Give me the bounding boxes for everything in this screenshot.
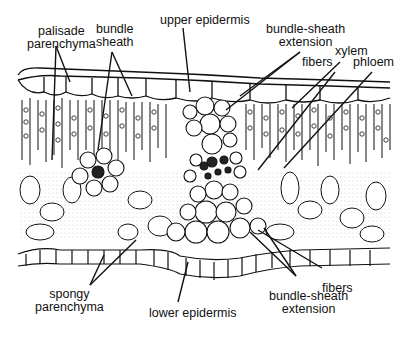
- label-line: sheath: [96, 36, 134, 49]
- label-upper-epidermis: upper epidermis: [160, 14, 250, 27]
- label-line: parenchyma: [35, 301, 104, 314]
- leaf-cross-section-diagram: palisade parenchyma bundle sheath upper …: [0, 0, 404, 343]
- label-bundle-sheath-extension-top: bundle-sheath extension: [266, 23, 345, 49]
- label-line: parenchyma: [27, 38, 96, 51]
- label-bundle-sheath: bundle sheath: [96, 23, 134, 49]
- lower-epidermis-drawing: [18, 248, 390, 280]
- label-fibers-top: fibers: [302, 56, 333, 69]
- label-line: extension: [269, 303, 348, 316]
- label-palisade-parenchyma: palisade parenchyma: [27, 25, 96, 51]
- label-phloem: phloem: [353, 56, 394, 69]
- label-bundle-sheath-extension-bottom: bundle-sheath extension: [269, 290, 348, 316]
- label-lower-epidermis: lower epidermis: [149, 307, 237, 320]
- label-spongy-parenchyma: spongy parenchyma: [35, 288, 104, 314]
- label-line: extension: [266, 36, 345, 49]
